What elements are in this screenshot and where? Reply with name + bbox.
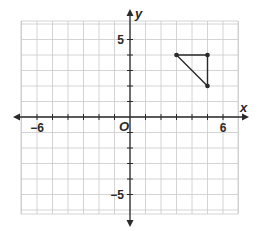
y-tick-label: −5 xyxy=(110,188,124,202)
vertex-point xyxy=(205,53,210,58)
origin-label: O xyxy=(119,119,129,134)
y-down-arrow-icon xyxy=(127,220,134,227)
y-tick-label: 5 xyxy=(117,33,124,47)
x-tick-label: −6 xyxy=(30,121,44,135)
y-up-arrow-icon xyxy=(127,9,134,16)
coordinate-plane: x y O −665−5 xyxy=(0,0,259,231)
vertex-point xyxy=(205,84,210,89)
x-left-arrow-icon xyxy=(13,114,20,121)
y-axis-label: y xyxy=(134,6,143,21)
x-axis-label: x xyxy=(239,100,248,115)
vertex-point xyxy=(174,53,179,58)
x-tick-label: 6 xyxy=(220,121,227,135)
